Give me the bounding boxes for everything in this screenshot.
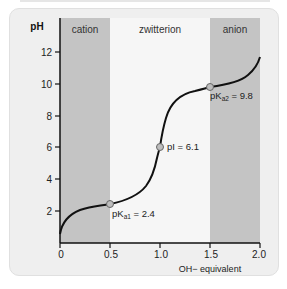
y-tick-label: 10 — [41, 79, 53, 90]
x-axis-label: OH− equivalent — [179, 264, 242, 274]
titration-chart: cation zwitterion anion 12 10 8 6 4 2 pH… — [0, 0, 287, 289]
pka2-label: pKa2 = 9.8 — [210, 90, 253, 102]
region-label-cation: cation — [72, 24, 99, 35]
pi-point — [157, 144, 164, 151]
pka1-point — [107, 201, 114, 208]
y-tick-label: 4 — [46, 174, 52, 185]
y-axis-label: pH — [30, 21, 43, 32]
x-tick-label: 2.0 — [252, 249, 266, 260]
anion-region — [210, 18, 260, 243]
y-tick-label: 12 — [41, 47, 53, 58]
x-tick-label: 0.5 — [104, 249, 118, 260]
x-tick-label: 1.0 — [154, 249, 168, 260]
region-label-anion: anion — [223, 24, 247, 35]
y-tick-label: 2 — [46, 206, 52, 217]
y-tick-label: 8 — [46, 111, 52, 122]
zwitterion-region — [110, 18, 210, 243]
pi-label: pI = 6.1 — [167, 141, 199, 152]
x-tick-label: 0 — [58, 249, 64, 260]
y-tick-label: 6 — [46, 142, 52, 153]
x-tick-label: 1.5 — [204, 249, 218, 260]
pka1-label: pKa1 = 2.4 — [112, 208, 155, 220]
region-label-zwitterion: zwitterion — [139, 24, 181, 35]
